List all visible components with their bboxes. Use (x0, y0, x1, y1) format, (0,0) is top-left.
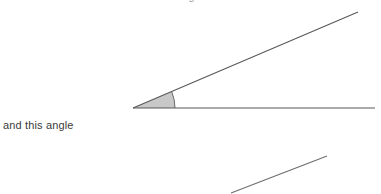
figure-canvas: measure of this angle and this angle (0, 0, 381, 194)
angle-diagram (0, 0, 381, 194)
caption-and-this-angle: and this angle (3, 119, 74, 132)
upper-ray (133, 12, 358, 108)
lower-line-segment (231, 156, 327, 193)
